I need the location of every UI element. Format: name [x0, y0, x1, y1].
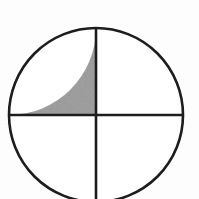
figure-container: Quartered circle with shaded upper-left … [0, 0, 199, 199]
quartered-circle-diagram [0, 0, 199, 199]
